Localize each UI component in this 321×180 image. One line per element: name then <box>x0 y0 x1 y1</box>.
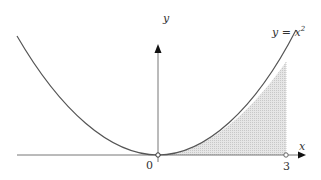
origin-point <box>156 153 160 157</box>
origin-label: 0 <box>146 159 153 172</box>
bound-point <box>284 153 288 157</box>
function-label: y = x2 <box>271 25 306 39</box>
x-axis-label: x <box>299 140 306 153</box>
y-axis-label: y <box>162 12 170 25</box>
shaded-area <box>158 62 286 155</box>
bound-label: 3 <box>283 160 290 173</box>
y-axis-arrow-icon <box>155 44 162 53</box>
parabola-diagram: y x 0 3 y = x2 <box>0 0 321 180</box>
